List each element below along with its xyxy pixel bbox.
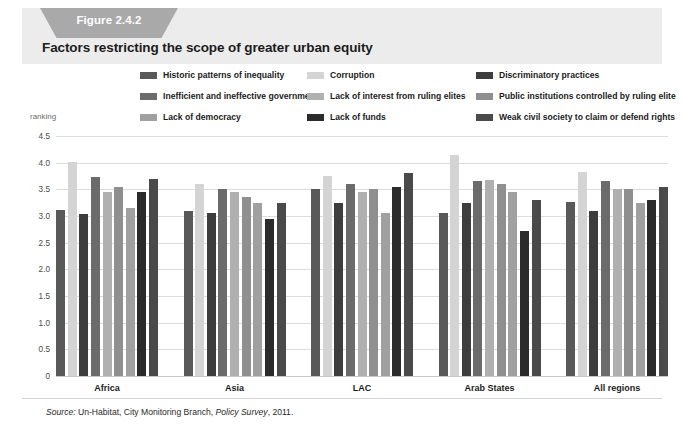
bar[interactable] <box>578 172 587 376</box>
y-axis-tick-label: 1.0 <box>39 318 50 327</box>
bar[interactable] <box>126 208 135 376</box>
legend-label: Corruption <box>330 70 374 80</box>
bar[interactable] <box>218 189 227 376</box>
figure-number-label: Figure 2.4.2 <box>40 14 178 26</box>
bar[interactable] <box>369 189 378 376</box>
legend-swatch-icon <box>307 72 324 79</box>
bar[interactable] <box>91 177 100 376</box>
bar[interactable] <box>636 203 645 376</box>
bar[interactable] <box>334 203 343 376</box>
page-title: Factors restricting the scope of greater… <box>42 40 373 55</box>
bar[interactable] <box>450 155 459 376</box>
legend-item[interactable]: Lack of democracy <box>140 112 241 122</box>
x-axis-group-label: All regions <box>566 383 668 393</box>
bar-group <box>566 136 668 376</box>
plot-area: 00.51.01.52.02.53.03.54.04.5AfricaAsiaLA… <box>56 136 668 376</box>
bar[interactable] <box>381 213 390 376</box>
legend-label: Weak civil society to claim or defend ri… <box>499 112 675 122</box>
bar[interactable] <box>195 184 204 376</box>
bar[interactable] <box>311 189 320 376</box>
legend-swatch-icon <box>476 114 493 121</box>
y-axis-tick-label: 1.5 <box>39 292 50 301</box>
legend-item[interactable]: Discriminatory practices <box>476 70 599 80</box>
bar[interactable] <box>207 213 216 376</box>
bar[interactable] <box>532 200 541 376</box>
source-year: , 2011. <box>268 407 294 417</box>
bar[interactable] <box>79 214 88 376</box>
bar[interactable] <box>277 203 286 376</box>
chart-legend: Historic patterns of inequalityInefficie… <box>140 70 668 124</box>
y-axis-label: ranking <box>30 112 56 121</box>
bar[interactable] <box>253 203 262 376</box>
x-axis-group-label: Arab States <box>439 383 541 393</box>
bar[interactable] <box>589 211 598 376</box>
y-axis-tick-label: 4.0 <box>39 158 50 167</box>
y-axis-tick-label: 3.0 <box>39 212 50 221</box>
bar[interactable] <box>497 184 506 376</box>
bar[interactable] <box>392 187 401 376</box>
bar[interactable] <box>114 187 123 376</box>
bar[interactable] <box>439 213 448 376</box>
legend-item[interactable]: Corruption <box>307 70 374 80</box>
source-note: Source: Un-Habitat, City Monitoring Bran… <box>46 407 293 417</box>
bar[interactable] <box>230 192 239 376</box>
bar-group <box>56 136 158 376</box>
bar[interactable] <box>647 200 656 376</box>
bar[interactable] <box>659 187 668 376</box>
y-axis-tick-label: 3.5 <box>39 185 50 194</box>
bar[interactable] <box>184 211 193 376</box>
bar-group <box>311 136 413 376</box>
legend-swatch-icon <box>307 114 324 121</box>
bar[interactable] <box>485 180 494 376</box>
bar[interactable] <box>601 181 610 376</box>
bar[interactable] <box>473 181 482 376</box>
bar[interactable] <box>323 176 332 376</box>
legend-item[interactable]: Lack of funds <box>307 112 386 122</box>
x-axis-line <box>56 376 668 377</box>
y-axis-tick-label: 2.5 <box>39 238 50 247</box>
bar[interactable] <box>520 231 529 376</box>
bar[interactable] <box>137 192 146 376</box>
bar-group <box>439 136 541 376</box>
legend-label: Historic patterns of inequality <box>163 70 284 80</box>
legend-swatch-icon <box>476 72 493 79</box>
y-axis-tick-label: 4.5 <box>39 132 50 141</box>
bar[interactable] <box>358 192 367 376</box>
legend-item[interactable]: Historic patterns of inequality <box>140 70 284 80</box>
legend-swatch-icon <box>140 93 157 100</box>
bar[interactable] <box>242 197 251 376</box>
legend-label: Public institutions controlled by ruling… <box>499 91 676 101</box>
x-axis-group-label: LAC <box>311 383 413 393</box>
bar[interactable] <box>566 202 575 376</box>
source-prefix: Source: <box>46 407 76 417</box>
legend-item[interactable]: Weak civil society to claim or defend ri… <box>476 112 675 122</box>
bar[interactable] <box>103 192 112 376</box>
bar[interactable] <box>624 189 633 376</box>
legend-item[interactable]: Inefficient and ineffective government <box>140 91 318 101</box>
bar[interactable] <box>346 184 355 376</box>
legend-label: Inefficient and ineffective government <box>163 91 318 101</box>
figure-container: Figure 2.4.2 Factors restricting the sco… <box>0 0 684 427</box>
x-axis-group-label: Africa <box>56 383 158 393</box>
bar[interactable] <box>265 219 274 376</box>
legend-label: Lack of democracy <box>163 112 241 122</box>
legend-swatch-icon <box>140 114 157 121</box>
bar[interactable] <box>68 162 77 376</box>
bar[interactable] <box>56 210 65 376</box>
y-axis-tick-label: 2.0 <box>39 265 50 274</box>
x-axis-group-label: Asia <box>184 383 286 393</box>
bar[interactable] <box>508 192 517 376</box>
bar[interactable] <box>404 173 413 376</box>
source-body: Un-Habitat, City Monitoring Branch, <box>76 407 216 417</box>
bar[interactable] <box>613 189 622 376</box>
legend-item[interactable]: Public institutions controlled by ruling… <box>476 91 676 101</box>
legend-swatch-icon <box>140 72 157 79</box>
bar[interactable] <box>149 179 158 376</box>
y-axis-tick-label: 0.5 <box>39 345 50 354</box>
y-axis-tick-label: 0 <box>45 372 50 381</box>
legend-label: Discriminatory practices <box>499 70 599 80</box>
legend-label: Lack of funds <box>330 112 386 122</box>
bar[interactable] <box>462 203 471 376</box>
legend-item[interactable]: Lack of interest from ruling elites <box>307 91 466 101</box>
legend-swatch-icon <box>307 93 324 100</box>
